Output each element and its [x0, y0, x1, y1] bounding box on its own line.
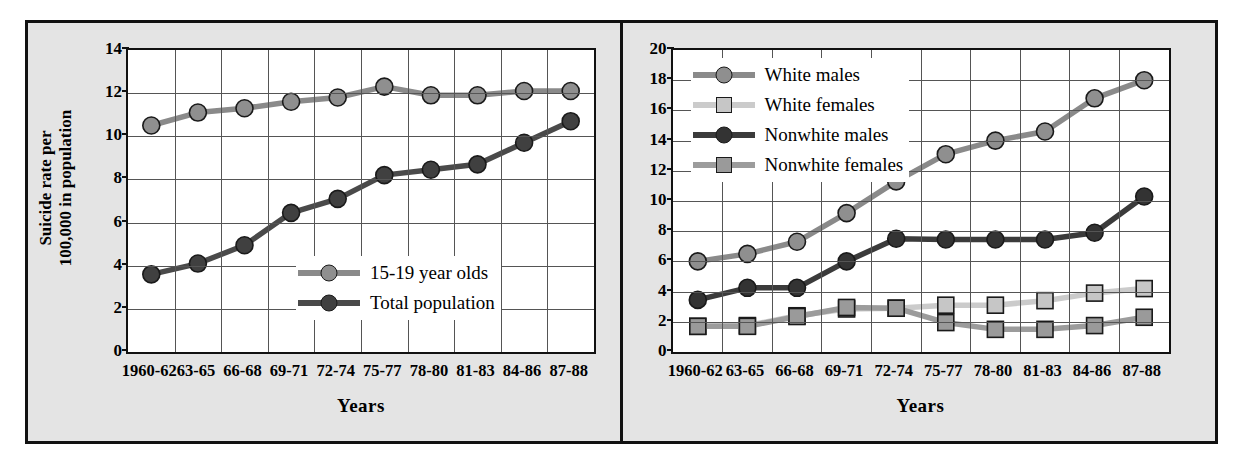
data-point-marker [1086, 318, 1102, 334]
y-axis-tick-label: 12 [88, 83, 122, 100]
legend-item[interactable]: Total population [298, 288, 495, 318]
y-axis-ticks-right: 02468101214161820 [627, 48, 667, 354]
gridline-vertical [268, 50, 269, 352]
y-axis-tick-label: 20 [633, 40, 667, 57]
y-axis-title: Suicide rate per 100,000 in population [30, 23, 82, 353]
y-axis-tick-label: 2 [88, 298, 122, 315]
x-axis-tick-label: 1960-62 [122, 363, 177, 380]
data-point-marker [1037, 293, 1053, 309]
data-point-marker [143, 117, 160, 134]
legend-swatch-circle-icon [298, 293, 360, 313]
y-axis-tick-label: 10 [633, 191, 667, 208]
legend-item[interactable]: White females [693, 90, 904, 120]
x-axis-tick-label: 87-88 [1122, 363, 1161, 380]
gridline-vertical [1069, 50, 1070, 352]
data-point-marker [689, 291, 706, 308]
y-axis-tick-label: 14 [88, 40, 122, 57]
x-axis-tick-label: 63-65 [726, 363, 765, 380]
x-axis-tick-label: 66-68 [775, 363, 814, 380]
y-axis-tick-label: 2 [633, 311, 667, 328]
legend-marker-square-icon [716, 157, 732, 173]
data-point-marker [937, 146, 954, 163]
y-axis-tick-label: 4 [88, 255, 122, 272]
data-point-marker [838, 205, 855, 222]
data-point-marker [236, 100, 253, 117]
figure-container: Suicide rate per 100,000 in population 0… [25, 20, 1218, 444]
data-point-marker [562, 82, 579, 99]
gridline-vertical [221, 50, 222, 352]
legend-swatch-square-icon [693, 155, 755, 175]
data-point-marker [1086, 90, 1103, 107]
y-axis-tick-label: 0 [633, 342, 667, 359]
x-axis-tick-label: 69-71 [270, 363, 309, 380]
chart-panel-right: 02468101214161820 White malesWhite femal… [623, 23, 1216, 441]
y-axis-tick-label: 6 [633, 251, 667, 268]
data-point-marker [469, 156, 486, 173]
data-point-marker [986, 231, 1003, 248]
y-axis-ticks-left: 02468101214 [84, 48, 122, 354]
legend-label: White males [765, 64, 861, 86]
x-axis-ticks-right: 1960-6263-6566-6869-7172-7475-7778-8081-… [671, 363, 1171, 385]
legend-swatch-circle-icon [693, 65, 755, 85]
data-point-marker [788, 233, 805, 250]
x-axis-tick-label: 84-86 [503, 363, 542, 380]
legend-label: Nonwhite males [765, 124, 889, 146]
data-point-marker [738, 245, 755, 262]
data-point-marker [376, 167, 393, 184]
gridline-vertical [501, 50, 502, 352]
gridline-vertical [970, 50, 971, 352]
y-axis-tick-label: 6 [88, 212, 122, 229]
legend-marker-square-icon [716, 97, 732, 113]
x-axis-tick-label: 72-74 [874, 363, 913, 380]
x-axis-tick-label: 78-80 [974, 363, 1013, 380]
data-point-marker [1036, 231, 1053, 248]
legend-marker-circle-icon [321, 295, 338, 312]
y-axis-tick-label: 14 [633, 130, 667, 147]
y-axis-tick-label: 8 [633, 221, 667, 238]
x-axis-tick-label: 63-65 [177, 363, 216, 380]
data-point-marker [469, 87, 486, 104]
legend-right: White malesWhite femalesNonwhite malesNo… [691, 58, 910, 182]
x-axis-ticks-left: 1960-6263-6566-6869-7172-7475-7778-8081-… [126, 363, 596, 385]
gridline-vertical [547, 50, 548, 352]
y-axis-tick-label: 4 [633, 281, 667, 298]
data-point-marker [888, 300, 904, 316]
data-point-marker [236, 237, 253, 254]
x-axis-tick-label: 75-77 [924, 363, 963, 380]
data-point-marker [1086, 285, 1102, 301]
y-axis-tick-label: 16 [633, 100, 667, 117]
legend-label: Nonwhite females [765, 154, 904, 176]
y-axis-title-line1: Suicide rate per [36, 130, 55, 245]
data-point-marker [1086, 224, 1103, 241]
legend-item[interactable]: White males [693, 60, 904, 90]
legend-item[interactable]: Nonwhite males [693, 120, 904, 150]
x-axis-tick-label: 81-83 [456, 363, 495, 380]
x-axis-tick-label: 87-88 [549, 363, 588, 380]
data-point-marker [838, 299, 854, 315]
data-point-marker [1136, 309, 1152, 325]
data-point-marker [788, 279, 805, 296]
data-point-marker [422, 161, 439, 178]
gridline-vertical [1119, 50, 1120, 352]
plot-area-left: 15-19 year oldsTotal population [126, 48, 596, 354]
x-axis-title-left: Years [126, 395, 596, 417]
y-axis-tick-label: 0 [88, 342, 122, 359]
x-axis-tick-label: 75-77 [363, 363, 402, 380]
data-point-marker [329, 190, 346, 207]
data-point-marker [937, 297, 953, 313]
legend-label: 15-19 year olds [370, 262, 488, 284]
data-point-marker [329, 89, 346, 106]
data-point-marker [143, 266, 160, 283]
legend-item[interactable]: Nonwhite females [693, 150, 904, 180]
legend-marker-circle-icon [715, 67, 732, 84]
data-point-marker [189, 255, 206, 272]
data-point-marker [1037, 321, 1053, 337]
plot-area-right: White malesWhite femalesNonwhite malesNo… [671, 48, 1171, 354]
data-point-marker [739, 318, 755, 334]
x-axis-tick-label: 78-80 [410, 363, 449, 380]
legend-left: 15-19 year oldsTotal population [296, 256, 501, 320]
legend-item[interactable]: 15-19 year olds [298, 258, 495, 288]
y-axis-tick-label: 8 [88, 169, 122, 186]
x-axis-tick-label: 81-83 [1023, 363, 1062, 380]
legend-marker-circle-icon [715, 127, 732, 144]
